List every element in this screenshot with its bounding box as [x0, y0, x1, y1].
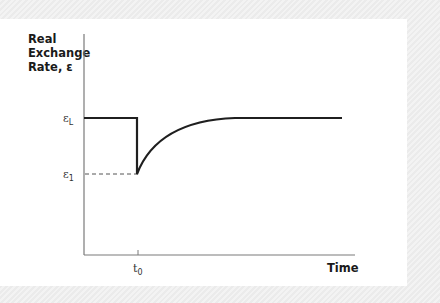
y-axis-label-line2: Exchange — [28, 46, 90, 60]
x-axis-title: Time — [327, 261, 359, 275]
y-axis-label-line1: Real — [28, 32, 56, 46]
y-tick-epsilon-L: εL — [63, 112, 74, 127]
chart: Real Exchange Rate, ε εL ε1 t0 Time — [0, 0, 440, 303]
exchange-rate-path — [84, 118, 342, 174]
y-axis-label-line3: Rate, ε — [28, 60, 73, 74]
x-tick-label-t0: t0 — [133, 262, 143, 277]
y-tick-epsilon-1: ε1 — [63, 168, 74, 183]
